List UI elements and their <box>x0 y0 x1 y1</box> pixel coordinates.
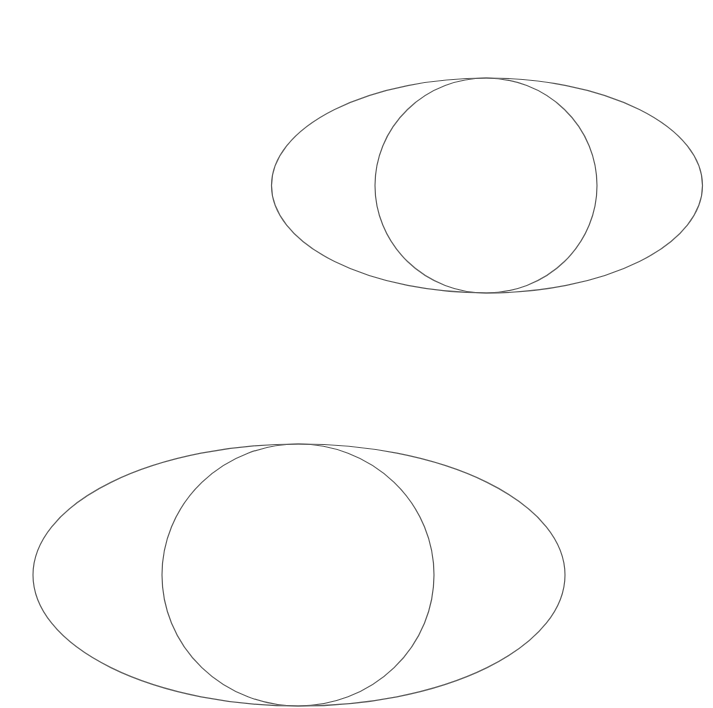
lower-outer-ellipse <box>33 444 565 706</box>
lower-figure <box>33 444 565 706</box>
upper-outer-ellipse <box>272 78 703 293</box>
lower-inner-circle <box>162 444 434 706</box>
diagram-canvas <box>0 0 713 708</box>
upper-figure <box>272 78 703 293</box>
upper-inner-circle <box>375 78 597 293</box>
